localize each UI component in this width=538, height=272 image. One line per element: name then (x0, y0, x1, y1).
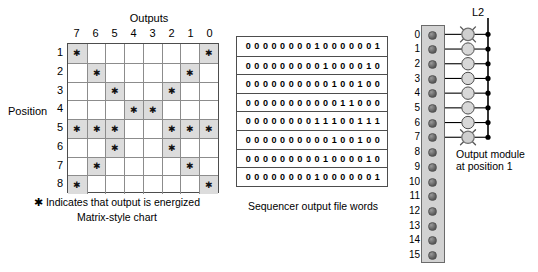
matrix-cell-p5-o3[interactable] (143, 120, 162, 138)
output-lamp-icon-2[interactable] (462, 58, 474, 70)
matrix-cell-p7-o1[interactable] (180, 158, 199, 176)
sequencer-word-row: 0 0 0 0 0 0 0 0 0 0 0 1 1 0 0 0 (237, 93, 387, 112)
matrix-cell-p3-o6[interactable] (87, 83, 106, 101)
matrix-cell-p5-o1[interactable] (180, 120, 199, 138)
matrix-cell-p6-o4[interactable] (124, 139, 143, 157)
matrix-cell-p5-o6[interactable] (87, 120, 106, 138)
module-terminal-0[interactable]: 0 (422, 28, 446, 43)
output-lamp-icon-5[interactable] (462, 102, 474, 114)
matrix-cell-p8-o3[interactable] (143, 176, 162, 194)
matrix-cell-p6-o2[interactable] (162, 139, 181, 157)
matrix-row-header-6: 6 (47, 137, 63, 156)
module-terminal-13[interactable]: 13 (422, 219, 446, 234)
matrix-column-header-4: 4 (124, 27, 143, 39)
matrix-cell-p7-o3[interactable] (143, 158, 162, 176)
matrix-cell-p4-o2[interactable] (162, 101, 181, 119)
matrix-row-header-4: 4 (47, 99, 63, 118)
matrix-cell-p6-o1[interactable] (180, 139, 199, 157)
matrix-cell-p2-o7[interactable] (68, 64, 87, 82)
matrix-cell-p2-o4[interactable] (124, 64, 143, 82)
matrix-cell-p6-o0[interactable] (199, 139, 218, 157)
matrix-cell-p1-o5[interactable] (105, 44, 124, 63)
module-terminal-6[interactable]: 6 (422, 116, 446, 131)
module-terminal-number-14: 14 (402, 233, 420, 248)
sequencer-words-panel: 0 0 0 0 0 0 0 0 1 0 0 0 0 0 0 10 0 0 0 0… (232, 0, 394, 225)
matrix-cell-p2-o0[interactable] (199, 64, 218, 82)
matrix-cell-p5-o2[interactable] (162, 120, 181, 138)
output-lamp-icon-1[interactable] (462, 43, 474, 55)
matrix-cell-p3-o3[interactable] (143, 83, 162, 101)
matrix-cell-p4-o4[interactable] (124, 101, 143, 119)
module-caption-line1: Output module (456, 148, 525, 160)
module-terminal-2[interactable]: 2 (422, 57, 446, 72)
matrix-cell-p4-o7[interactable] (68, 101, 87, 119)
matrix-cell-p4-o5[interactable] (105, 101, 124, 119)
matrix-cell-p7-o0[interactable] (199, 158, 218, 176)
matrix-cell-p3-o5[interactable] (105, 83, 124, 101)
matrix-cell-p2-o2[interactable] (162, 64, 181, 82)
module-terminal-4[interactable]: 4 (422, 87, 446, 102)
matrix-cell-p3-o7[interactable] (68, 83, 87, 101)
output-lamp-icon-6[interactable] (462, 116, 474, 128)
matrix-cell-p2-o3[interactable] (143, 64, 162, 82)
matrix-cell-p2-o5[interactable] (105, 64, 124, 82)
matrix-cell-p4-o6[interactable] (87, 101, 106, 119)
matrix-cell-p4-o0[interactable] (199, 101, 218, 119)
module-terminal-3[interactable]: 3 (422, 72, 446, 87)
output-circuit-2 (445, 58, 491, 70)
matrix-cell-p1-o3[interactable] (143, 44, 162, 63)
matrix-cell-p6-o5[interactable] (105, 139, 124, 157)
matrix-cell-p5-o4[interactable] (124, 120, 143, 138)
matrix-row (68, 44, 218, 63)
matrix-cell-p3-o0[interactable] (199, 83, 218, 101)
matrix-cell-p8-o2[interactable] (162, 176, 181, 194)
output-lamp-icon-4[interactable] (462, 87, 474, 99)
matrix-cell-p3-o2[interactable] (162, 83, 181, 101)
matrix-cell-p8-o5[interactable] (105, 176, 124, 194)
matrix-cell-p2-o1[interactable] (180, 64, 199, 82)
matrix-cell-p3-o1[interactable] (180, 83, 199, 101)
matrix-cell-p5-o7[interactable] (68, 120, 87, 138)
matrix-cell-p1-o7[interactable] (68, 44, 87, 63)
matrix-cell-p8-o1[interactable] (180, 176, 199, 194)
matrix-cell-p2-o6[interactable] (87, 64, 106, 82)
matrix-cell-p1-o2[interactable] (162, 44, 181, 63)
matrix-cell-p4-o1[interactable] (180, 101, 199, 119)
matrix-cell-p7-o4[interactable] (124, 158, 143, 176)
module-terminal-11[interactable]: 11 (422, 190, 446, 205)
matrix-cell-p8-o6[interactable] (87, 176, 106, 194)
matrix-cell-p3-o4[interactable] (124, 83, 143, 101)
matrix-cell-p7-o6[interactable] (87, 158, 106, 176)
matrix-cell-p1-o4[interactable] (124, 44, 143, 63)
matrix-cell-p8-o0[interactable] (199, 176, 218, 194)
output-lamp-icon-3[interactable] (462, 72, 474, 84)
module-terminal-5[interactable]: 5 (422, 102, 446, 117)
matrix-column-header-3: 3 (143, 27, 162, 39)
module-terminal-15[interactable]: 15 (422, 249, 446, 264)
matrix-cell-p5-o5[interactable] (105, 120, 124, 138)
matrix-cell-p8-o4[interactable] (124, 176, 143, 194)
module-terminal-12[interactable]: 12 (422, 204, 446, 219)
module-terminal-14[interactable]: 14 (422, 234, 446, 249)
matrix-cell-p7-o2[interactable] (162, 158, 181, 176)
matrix-cell-p1-o6[interactable] (87, 44, 106, 63)
module-terminal-10[interactable]: 10 (422, 175, 446, 190)
module-terminal-1[interactable]: 1 (422, 43, 446, 58)
matrix-cell-p1-o1[interactable] (180, 44, 199, 63)
output-lamp-icon-7[interactable] (462, 131, 474, 143)
output-lamp-icon-0[interactable] (462, 28, 474, 40)
matrix-cell-p6-o3[interactable] (143, 139, 162, 157)
matrix-cell-p6-o6[interactable] (87, 139, 106, 157)
matrix-cell-p5-o0[interactable] (199, 120, 218, 138)
module-terminal-9[interactable]: 9 (422, 160, 446, 175)
module-terminal-8[interactable]: 8 (422, 146, 446, 161)
matrix-cell-p6-o7[interactable] (68, 139, 87, 157)
matrix-cell-p4-o3[interactable] (143, 101, 162, 119)
matrix-cell-p1-o0[interactable] (199, 44, 218, 63)
matrix-row (68, 119, 218, 138)
matrix-cell-p8-o7[interactable] (68, 176, 87, 194)
matrix-cell-p7-o7[interactable] (68, 158, 87, 176)
sequencer-word-row: 0 0 0 0 0 0 0 0 0 1 0 0 0 0 1 0 (237, 56, 387, 75)
module-terminal-7[interactable]: 7 (422, 131, 446, 146)
matrix-cell-p7-o5[interactable] (105, 158, 124, 176)
